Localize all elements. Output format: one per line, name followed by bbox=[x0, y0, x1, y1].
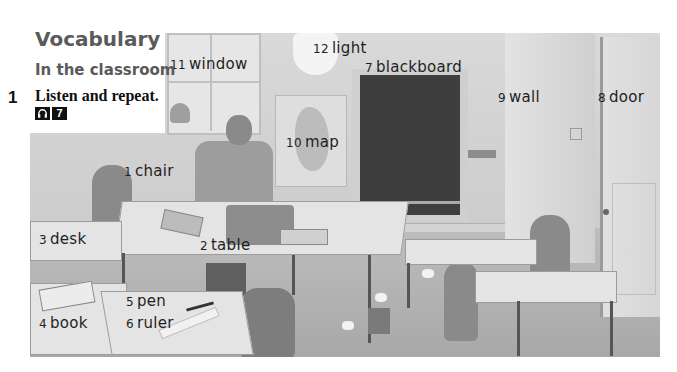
label-number: 4 bbox=[39, 317, 47, 331]
label-number: 6 bbox=[126, 317, 134, 331]
label-number: 1 bbox=[124, 165, 132, 179]
exercise-instruction: Listen and repeat. bbox=[35, 87, 159, 105]
label-chair: 1chair bbox=[124, 162, 174, 180]
label-word: door bbox=[609, 88, 644, 106]
label-door: 8door bbox=[598, 88, 644, 106]
teacher bbox=[195, 141, 273, 203]
book-on-table bbox=[280, 229, 328, 245]
paper-ball bbox=[342, 321, 354, 330]
label-number: 3 bbox=[39, 233, 47, 247]
label-number: 12 bbox=[313, 42, 329, 56]
eraser bbox=[468, 150, 496, 158]
table-leg bbox=[292, 255, 295, 295]
label-wall: 9wall bbox=[498, 88, 540, 106]
label-word: pen bbox=[137, 292, 166, 310]
label-word: blackboard bbox=[376, 58, 462, 76]
label-word: chair bbox=[135, 162, 174, 180]
label-pen: 5pen bbox=[126, 292, 166, 310]
light-switch bbox=[570, 128, 582, 140]
label-word: ruler bbox=[137, 314, 174, 332]
label-number: 2 bbox=[200, 239, 208, 253]
label-word: light bbox=[332, 39, 367, 57]
headphones-icon bbox=[35, 107, 50, 120]
plant-pot bbox=[170, 103, 190, 123]
paper-ball bbox=[422, 269, 434, 278]
label-number: 10 bbox=[286, 136, 302, 150]
chair-illustration bbox=[444, 261, 478, 341]
label-word: wall bbox=[509, 88, 540, 106]
desk-leg bbox=[407, 263, 410, 308]
window-frame bbox=[167, 81, 259, 83]
page-title: Vocabulary bbox=[35, 27, 160, 51]
label-light: 12light bbox=[313, 39, 367, 57]
paper-ball bbox=[375, 293, 387, 302]
blackboard-illustration bbox=[360, 75, 460, 215]
label-number: 7 bbox=[365, 61, 373, 75]
label-ruler: 6ruler bbox=[126, 314, 174, 332]
label-word: map bbox=[305, 133, 339, 151]
desk-illustration bbox=[405, 239, 537, 265]
section-subtitle: In the classroom bbox=[35, 61, 175, 79]
label-word: window bbox=[189, 55, 248, 73]
label-map: 10map bbox=[286, 133, 339, 151]
label-word: table bbox=[211, 236, 251, 254]
label-number: 8 bbox=[598, 91, 606, 105]
desk-leg bbox=[610, 301, 613, 356]
door-knob bbox=[603, 209, 609, 215]
label-word: book bbox=[50, 314, 88, 332]
label-number: 5 bbox=[126, 295, 134, 309]
label-word: desk bbox=[50, 230, 86, 248]
label-window: 11window bbox=[170, 55, 248, 73]
audio-track-badge: 7 bbox=[35, 107, 67, 120]
label-blackboard: 7blackboard bbox=[365, 58, 462, 76]
label-table: 2table bbox=[200, 236, 250, 254]
desk-illustration bbox=[475, 271, 617, 303]
desk-leg bbox=[517, 301, 520, 356]
door-panel bbox=[612, 183, 656, 295]
teacher-head bbox=[226, 115, 252, 145]
waste-bin bbox=[368, 308, 390, 334]
track-number: 7 bbox=[52, 107, 67, 120]
label-desk: 3desk bbox=[39, 230, 86, 248]
label-number: 9 bbox=[498, 91, 506, 105]
label-book: 4book bbox=[39, 314, 88, 332]
exercise-number: 1 bbox=[8, 88, 17, 108]
